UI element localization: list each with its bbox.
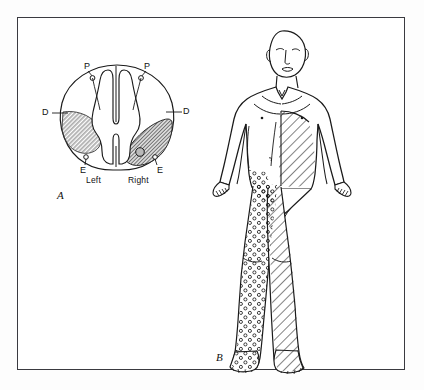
label-e-left: E xyxy=(80,166,86,175)
label-p-left: P xyxy=(84,62,90,71)
label-d-left: D xyxy=(42,108,49,117)
label-e-right: E xyxy=(157,166,163,175)
label-d-right: D xyxy=(183,107,190,116)
label-side-left: Left xyxy=(86,176,101,185)
label-p-right: P xyxy=(144,62,150,71)
label-side-right: Right xyxy=(128,176,149,185)
panel-b-caption: B xyxy=(216,352,223,363)
panel-a-caption: A xyxy=(57,190,64,201)
figure-root: P P D D E E Left Right A B xyxy=(0,0,424,390)
plate-border xyxy=(17,17,405,370)
